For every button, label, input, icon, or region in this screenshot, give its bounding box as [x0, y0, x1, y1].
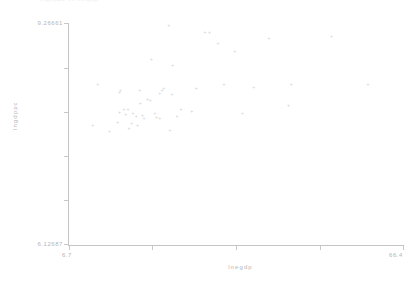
data-point: + [124, 112, 128, 117]
y-axis-tick [64, 156, 68, 157]
cropped-header-text: lngdppc vs lnegdp [0, 0, 413, 8]
data-point: + [158, 91, 162, 96]
cropped-header-label: lngdppc vs lnegdp [40, 0, 99, 2]
data-point: + [252, 84, 256, 89]
y-axis-tick [64, 68, 68, 69]
scatter-plot: lngdppc vs lnegdp 9.26661 6.12687 6.7 66… [0, 0, 413, 281]
data-point: + [241, 110, 245, 115]
x-axis-tick [236, 246, 237, 250]
y-axis-line [68, 23, 69, 245]
data-point: + [330, 34, 334, 39]
y-axis-tick [64, 244, 68, 245]
y-axis-max-label: 9.26661 [37, 20, 63, 26]
data-point: + [223, 82, 227, 87]
x-axis-min-label: 6.7 [62, 252, 72, 258]
data-point: + [118, 110, 122, 115]
data-point: + [136, 122, 140, 127]
x-axis-tick [320, 246, 321, 250]
data-point: + [180, 107, 184, 112]
data-point: + [366, 82, 370, 87]
y-axis-tick [64, 112, 68, 113]
data-point: + [176, 113, 180, 118]
data-point: + [91, 123, 95, 128]
data-point: + [171, 91, 175, 96]
x-axis-max-label: 66.4 [389, 252, 403, 258]
data-point: + [168, 127, 172, 132]
data-point: + [135, 114, 139, 119]
data-point: + [127, 125, 131, 130]
data-point: + [287, 103, 291, 108]
data-point: + [208, 30, 212, 35]
data-point: + [267, 35, 271, 40]
data-point: + [150, 56, 154, 61]
data-point: + [138, 87, 142, 92]
data-point: + [118, 89, 122, 94]
data-point: + [171, 63, 175, 68]
data-point: + [149, 98, 153, 103]
y-axis-tick [64, 23, 68, 24]
data-point: + [195, 86, 199, 91]
data-point: + [158, 116, 162, 121]
x-axis-tick [152, 246, 153, 250]
data-point: + [204, 30, 208, 35]
data-point: + [290, 82, 294, 87]
x-axis-title: lnegdp [0, 264, 413, 270]
data-point: + [96, 82, 100, 87]
data-point: + [108, 129, 112, 134]
data-point: + [143, 116, 147, 121]
x-axis-tick [69, 246, 70, 250]
data-point: + [216, 41, 220, 46]
data-point: + [233, 49, 237, 54]
data-point: + [139, 100, 143, 105]
y-axis-min-label: 6.12687 [37, 241, 63, 247]
x-axis-tick [403, 246, 404, 250]
data-point: + [116, 119, 120, 124]
data-point: + [167, 23, 171, 28]
y-axis-tick [64, 200, 68, 201]
data-point: + [190, 108, 194, 113]
y-axis-title: lngdppc [12, 101, 18, 130]
